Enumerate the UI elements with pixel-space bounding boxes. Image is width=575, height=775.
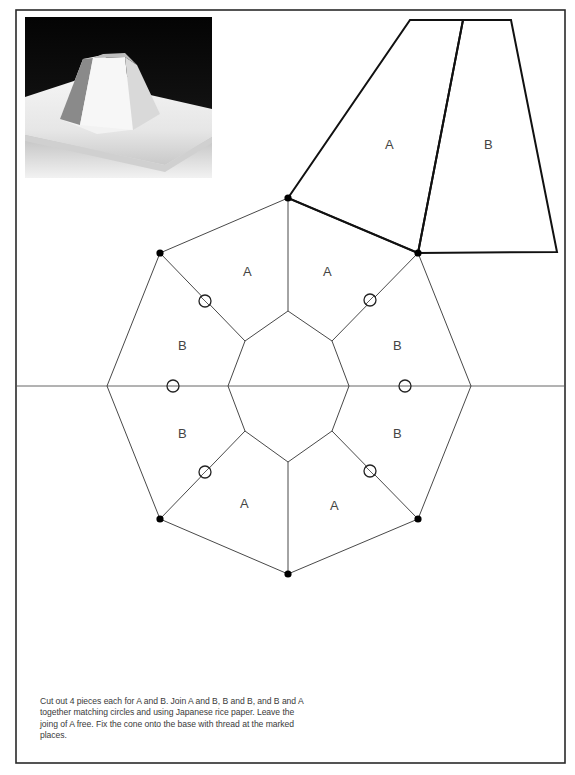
segment-label: A — [330, 498, 339, 513]
page-border — [16, 10, 565, 763]
inner-octagon — [228, 311, 349, 462]
thread-dot-icon — [156, 515, 163, 522]
segment-label: B — [393, 338, 402, 353]
thread-dot-icon — [284, 194, 291, 201]
segment-label: A — [243, 264, 252, 279]
cone-pattern-diagram: A B A A B B B B A A — [0, 0, 575, 775]
thread-dot-icon — [414, 515, 421, 522]
separate-pattern-pieces — [288, 20, 557, 253]
outer-edge-bold — [288, 198, 418, 253]
thread-dot-icon — [414, 249, 421, 256]
segment-label: B — [393, 426, 402, 441]
piece-b-label: B — [484, 137, 493, 152]
segment-label: A — [240, 496, 249, 511]
thread-dot-icon — [156, 249, 163, 256]
thread-dot-icon — [284, 570, 291, 577]
segment-label: A — [323, 264, 332, 279]
segment-label: B — [178, 426, 187, 441]
segment-label: B — [178, 338, 187, 353]
piece-a-outline — [288, 20, 463, 253]
instructions-caption: Cut out 4 pieces each for A and B. Join … — [40, 696, 310, 742]
piece-a-label: A — [385, 137, 394, 152]
